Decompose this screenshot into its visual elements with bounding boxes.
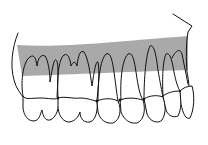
contact-point bbox=[57, 97, 59, 99]
dental-arch-illustration bbox=[0, 0, 208, 145]
contact-point bbox=[179, 90, 181, 92]
tooth-premolar-1-crown bbox=[97, 99, 120, 123]
contact-point bbox=[119, 99, 122, 102]
tooth-molar-2-crown bbox=[58, 97, 97, 122]
tooth-central-incisor-crown bbox=[180, 86, 194, 118]
tooth-canine-crown bbox=[144, 96, 165, 122]
tooth-lateral-incisor-crown bbox=[163, 91, 181, 117]
tooth-premolar-2-crown bbox=[120, 98, 144, 123]
tooth-molar-1-crown bbox=[23, 96, 59, 121]
contact-point bbox=[96, 100, 99, 103]
contact-point bbox=[143, 98, 145, 100]
dental-arch-svg bbox=[0, 0, 208, 145]
